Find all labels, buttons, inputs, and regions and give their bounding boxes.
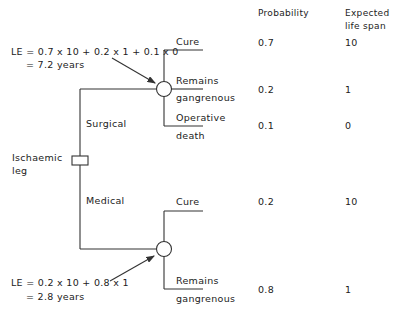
- surgical-death-lifespan: 0: [345, 120, 351, 131]
- surgical-outcome-death: death: [176, 130, 205, 141]
- surgical-branch-label: Surgical: [86, 118, 127, 129]
- surgical-cure-probability: 0.7: [258, 37, 274, 48]
- decision-tree-diagram: Probability Expected life span Ischaemic…: [0, 0, 401, 315]
- medical-outcome-gangrenous: gangrenous: [176, 293, 235, 304]
- surgical-death-probability: 0.1: [258, 120, 274, 131]
- expected-header-line2: life span: [345, 21, 386, 32]
- surgical-gangrenous-probability: 0.2: [258, 84, 274, 95]
- surgical-le-result: = 7.2 years: [26, 59, 85, 70]
- medical-cure-probability: 0.2: [258, 196, 274, 207]
- medical-chance-node: [157, 242, 172, 257]
- surgical-outcome-cure: Cure: [176, 36, 199, 47]
- medical-cure-lifespan: 10: [345, 196, 358, 207]
- medical-outcome-cure: Cure: [176, 196, 199, 207]
- surgical-cure-lifespan: 10: [345, 37, 358, 48]
- medical-gangrenous-lifespan: 1: [345, 284, 351, 295]
- surgical-le-formula: LE = 0.7 x 10 + 0.2 x 1 + 0.1 x 0: [11, 46, 179, 57]
- root-label-line2: leg: [12, 165, 27, 176]
- medical-outcome-remains: Remains: [176, 275, 219, 286]
- surgical-chance-node: [157, 82, 172, 97]
- surgical-outcome-gangrenous: gangrenous: [176, 92, 235, 103]
- medical-gangrenous-probability: 0.8: [258, 284, 274, 295]
- surgical-le-arrow: [112, 58, 155, 83]
- root-label-line1: Ischaemic: [12, 152, 62, 163]
- expected-header-line1: Expected: [345, 8, 389, 19]
- medical-le-formula: LE = 0.2 x 10 + 0.8 x 1: [11, 277, 129, 288]
- probability-header: Probability: [258, 8, 309, 19]
- medical-le-result: = 2.8 years: [26, 291, 85, 302]
- decision-node-square: [72, 156, 88, 165]
- surgical-outcome-remains: Remains: [176, 75, 219, 86]
- medical-branch-label: Medical: [86, 195, 125, 206]
- surgical-outcome-operative: Operative: [176, 112, 226, 123]
- surgical-gangrenous-lifespan: 1: [345, 84, 351, 95]
